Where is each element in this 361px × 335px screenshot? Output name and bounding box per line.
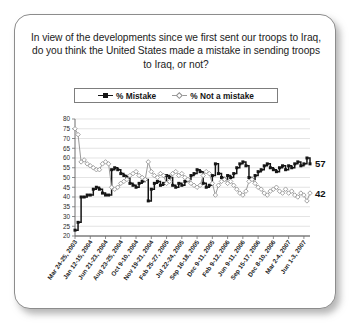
data-point-square <box>101 192 104 195</box>
data-point-square <box>89 194 92 197</box>
data-point-square <box>214 162 217 165</box>
open-diamond-marker-icon <box>172 92 187 100</box>
data-point-square <box>110 168 113 171</box>
legend-label-mistake: % Mistake <box>116 91 156 101</box>
data-point-square <box>150 188 153 191</box>
data-point-square <box>116 168 119 171</box>
data-point-square <box>202 182 205 185</box>
data-point-square <box>275 170 278 173</box>
data-point-square <box>128 182 131 185</box>
plot-area: 20253035404550556065707580Mar 24-25, 200… <box>15 111 337 311</box>
data-point-diamond <box>305 199 310 204</box>
data-point-square <box>281 164 284 167</box>
data-point-square <box>98 188 101 191</box>
data-point-square <box>284 168 287 171</box>
data-point-square <box>92 188 95 191</box>
data-point-square <box>290 166 293 169</box>
data-point-square <box>296 160 299 163</box>
data-point-square <box>263 164 266 167</box>
data-point-square <box>293 162 296 165</box>
y-axis-tick-label: 70 <box>63 135 71 142</box>
data-point-square <box>241 160 244 163</box>
data-point-square <box>269 166 272 169</box>
y-axis-tick-label: 30 <box>63 213 71 220</box>
legend-item-mistake[interactable]: % Mistake <box>98 91 156 101</box>
data-point-square <box>95 186 98 189</box>
data-point-square <box>174 186 177 189</box>
data-point-square <box>119 172 122 175</box>
y-axis-tick-label: 35 <box>63 203 71 210</box>
data-point-square <box>177 182 180 185</box>
data-point-diamond <box>73 126 78 131</box>
data-point-square <box>217 172 220 175</box>
chart-card: In view of the developments since we fir… <box>14 14 336 309</box>
data-point-square <box>211 174 214 177</box>
data-point-square <box>189 174 192 177</box>
data-point-square <box>244 164 247 167</box>
data-point-diamond <box>308 191 313 196</box>
end-value-label-2: 42 <box>315 188 326 199</box>
data-point-square <box>80 196 83 199</box>
data-point-square <box>77 221 80 224</box>
chart-legend: % Mistake % Not a mistake <box>74 88 278 103</box>
data-point-square <box>131 184 134 187</box>
data-point-square <box>287 164 290 167</box>
data-point-diamond <box>213 193 218 198</box>
data-point-square <box>266 162 269 165</box>
data-point-square <box>226 174 229 177</box>
data-point-square <box>272 168 275 171</box>
chart-question-title: In view of the developments since we fir… <box>31 31 321 71</box>
screenshot-root: In view of the developments since we fir… <box>0 0 361 335</box>
data-point-diamond <box>97 167 102 172</box>
data-point-square <box>74 229 77 232</box>
data-point-square <box>147 199 150 202</box>
y-axis-tick-label: 45 <box>63 184 71 191</box>
data-point-square <box>299 164 302 167</box>
y-axis-tick-label: 40 <box>63 193 71 200</box>
end-value-label-1: 57 <box>315 158 326 169</box>
line-chart-svg: 20253035404550556065707580Mar 24-25, 200… <box>15 111 337 311</box>
data-point-square <box>232 172 235 175</box>
data-point-square <box>305 157 308 160</box>
y-axis-tick-label: 80 <box>63 115 71 122</box>
data-point-square <box>260 168 263 171</box>
data-point-square <box>235 166 238 169</box>
data-point-square <box>104 194 107 197</box>
data-point-square <box>238 162 241 165</box>
data-point-square <box>196 168 199 171</box>
data-point-square <box>171 184 174 187</box>
y-axis-tick-label: 25 <box>63 223 71 230</box>
data-point-square <box>153 182 156 185</box>
data-point-square <box>193 172 196 175</box>
data-point-square <box>86 194 89 197</box>
data-point-square <box>107 194 110 197</box>
data-point-square <box>205 186 208 189</box>
data-point-square <box>199 170 202 173</box>
data-point-diamond <box>76 132 81 137</box>
y-axis-tick-label: 65 <box>63 145 71 152</box>
y-axis-tick-label: 20 <box>63 232 71 239</box>
data-point-square <box>180 184 183 187</box>
data-point-square <box>113 166 116 169</box>
y-axis-tick-label: 55 <box>63 164 71 171</box>
data-point-square <box>309 162 312 165</box>
data-point-square <box>83 196 86 199</box>
filled-square-marker-icon <box>98 92 113 100</box>
data-point-square <box>302 162 305 165</box>
data-point-diamond <box>146 160 151 165</box>
data-point-square <box>122 174 125 177</box>
data-point-square <box>254 174 257 177</box>
data-point-square <box>208 184 211 187</box>
data-point-square <box>278 166 281 169</box>
legend-item-not-a-mistake[interactable]: % Not a mistake <box>172 91 254 101</box>
data-point-square <box>257 170 260 173</box>
y-axis-tick-label: 50 <box>63 174 71 181</box>
data-point-square <box>138 182 141 185</box>
legend-label-not-a-mistake: % Not a mistake <box>190 91 254 101</box>
y-axis-tick-label: 60 <box>63 154 71 161</box>
y-axis-tick-label: 75 <box>63 125 71 132</box>
data-point-square <box>135 186 138 189</box>
data-point-square <box>159 184 162 187</box>
